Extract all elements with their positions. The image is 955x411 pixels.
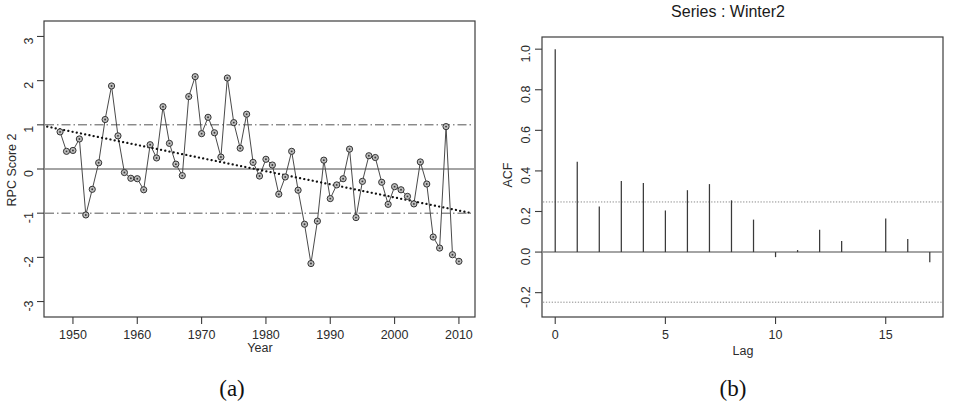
x-tick-label-a: 1950 [59, 328, 87, 342]
y-tick-label-b: 0.6 [519, 126, 533, 143]
data-point-center [214, 132, 216, 134]
y-axis-label-a: RPC Score 2 [5, 133, 19, 206]
data-point-center [336, 184, 338, 186]
x-tick-label-a: 1970 [188, 328, 216, 342]
acf-chart: Series : Winter2 1.00.80.60.40.20.0-0.20… [490, 0, 955, 411]
x-tick-label-a: 2010 [445, 328, 473, 342]
axis-labels-b: Lag ACF [501, 162, 753, 358]
data-point-center [130, 177, 132, 179]
y-tick-label-b: 0.4 [519, 167, 533, 184]
caption-a: (a) [219, 376, 245, 401]
data-point-center [181, 175, 183, 177]
acf-bars [555, 49, 930, 262]
data-point-center [381, 181, 383, 183]
data-point-center [284, 176, 286, 178]
y-tick-label-a: 0 [22, 170, 36, 177]
plot-frame-b [542, 37, 943, 317]
trend-line [47, 127, 472, 214]
data-point-center [91, 188, 93, 190]
data-point-center [419, 161, 421, 163]
data-point-center [316, 220, 318, 222]
data-point-center [432, 236, 434, 238]
data-series-a [60, 77, 459, 264]
data-markers-a [57, 74, 462, 267]
data-point-center [111, 85, 113, 87]
data-point-center [458, 260, 460, 262]
data-point-center [349, 148, 351, 150]
x-tick-label-b: 10 [769, 328, 783, 342]
data-point-center [117, 135, 119, 137]
data-point-center [374, 157, 376, 159]
data-point-center [342, 178, 344, 180]
x-tick-label-a: 1980 [252, 328, 280, 342]
x-tick-label-a: 1990 [316, 328, 344, 342]
data-point-center [452, 254, 454, 256]
figure-container: 3210-1-2-31950196019701980199020002010 Y… [0, 0, 955, 411]
data-point-center [252, 161, 254, 163]
data-point-center [439, 247, 441, 249]
x-tick-label-a: 1960 [123, 328, 151, 342]
data-point-center [329, 198, 331, 200]
data-point-center [445, 126, 447, 128]
x-axis-label-b: Lag [733, 344, 754, 358]
data-point-center [233, 122, 235, 124]
y-tick-label-b: 1.0 [519, 45, 533, 62]
data-point-center [226, 77, 228, 79]
data-point-center [220, 156, 222, 158]
x-axis-label-a: Year [247, 341, 272, 355]
panel-a-timeseries: 3210-1-2-31950196019701980199020002010 Y… [0, 0, 490, 411]
data-point-center [98, 162, 100, 164]
data-point-center [271, 164, 273, 166]
data-point-center [149, 144, 151, 146]
panel-b-acf: Series : Winter2 1.00.80.60.40.20.0-0.20… [490, 0, 955, 411]
data-point-center [156, 157, 158, 159]
axis-labels-a: Year RPC Score 2 [5, 133, 273, 355]
trend-line-a [47, 127, 472, 214]
data-point-center [387, 203, 389, 205]
data-point-center [355, 217, 357, 219]
y-tick-label-a: 1 [22, 126, 36, 133]
data-point-center [407, 195, 409, 197]
data-point-center [175, 163, 177, 165]
timeseries-polyline [60, 77, 459, 264]
y-tick-label-b: 0.0 [519, 248, 533, 265]
data-point-center [136, 178, 138, 180]
data-point-center [72, 149, 74, 151]
data-point-center [78, 138, 80, 140]
data-point-center [143, 189, 145, 191]
data-point-center [400, 189, 402, 191]
rpc-score-timeseries-chart: 3210-1-2-31950196019701980199020002010 Y… [0, 0, 490, 411]
x-tick-label-b: 0 [552, 328, 559, 342]
y-tick-label-a: -1 [22, 212, 36, 223]
data-point-center [66, 150, 68, 152]
data-point-center [85, 214, 87, 216]
y-tick-label-a: -2 [22, 256, 36, 267]
data-point-center [104, 119, 106, 121]
data-point-center [246, 113, 248, 115]
data-point-center [123, 172, 125, 174]
data-point-center [188, 96, 190, 98]
y-tick-label-a: 2 [22, 82, 36, 89]
data-point-center [265, 158, 267, 160]
y-tick-label-a: 3 [22, 37, 36, 44]
data-point-center [304, 223, 306, 225]
x-tick-label-b: 15 [879, 328, 893, 342]
y-tick-label-a: -3 [22, 300, 36, 311]
data-point-center [162, 106, 164, 108]
axis-ticks-b: 1.00.80.60.40.20.0-0.2051015 [519, 45, 893, 342]
x-tick-label-b: 5 [662, 328, 669, 342]
data-point-center [361, 180, 363, 182]
data-point-center [59, 131, 61, 133]
data-point-center [297, 189, 299, 191]
data-point-center [168, 142, 170, 144]
data-point-center [201, 133, 203, 135]
data-point-center [194, 76, 196, 78]
y-tick-label-b: 0.2 [519, 207, 533, 224]
data-point-center [368, 155, 370, 157]
data-point-center [278, 193, 280, 195]
x-tick-label-a: 2000 [381, 328, 409, 342]
data-point-center [426, 183, 428, 185]
data-point-center [239, 147, 241, 149]
data-point-center [310, 263, 312, 265]
data-point-center [207, 116, 209, 118]
